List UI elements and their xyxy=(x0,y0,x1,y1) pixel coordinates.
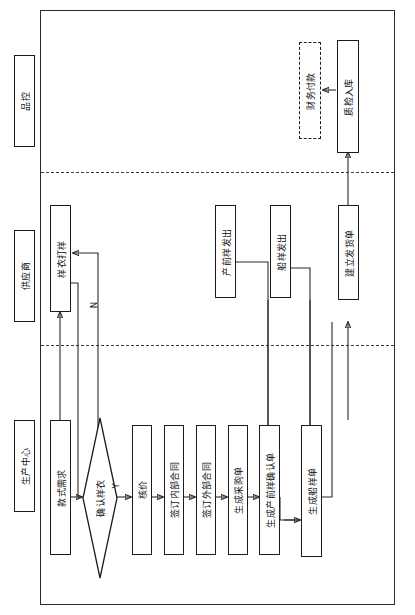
node-price-review-label: 核价 xyxy=(136,481,149,500)
node-qc-warehousing-label: 质检入库 xyxy=(342,78,355,116)
node-price-review[interactable]: 核价 xyxy=(132,425,152,555)
node-sign-internal-label: 签订内部合同 xyxy=(168,462,181,518)
node-create-delivery[interactable]: 建立发货单 xyxy=(338,205,359,300)
lane-divider-quality-supplier xyxy=(41,172,394,173)
node-ship-sample-sent-label: 船样发出 xyxy=(274,233,287,271)
node-preprod-sent-label: 产前样发出 xyxy=(219,228,232,275)
edge-label-no: N xyxy=(89,302,99,308)
node-gen-ship-sample-label: 生成船样单 xyxy=(305,468,318,515)
lane-divider-supplier-production xyxy=(41,345,394,346)
node-ship-sample-sent[interactable]: 船样发出 xyxy=(270,205,291,298)
node-finance-payment-label: 财务付款 xyxy=(304,72,317,110)
lane-title-supplier: 供应商 xyxy=(14,230,35,322)
lane-title-production: 生产中心 xyxy=(14,420,35,512)
node-finance-payment[interactable]: 财务付款 xyxy=(299,42,321,139)
node-preprod-sent[interactable]: 产前样发出 xyxy=(215,205,236,298)
node-gen-preprod-confirm-label: 生成产前样确认单 xyxy=(263,452,276,527)
node-gen-ship-sample[interactable]: 生成船样单 xyxy=(301,425,322,557)
node-sample-making[interactable]: 样衣打样 xyxy=(50,205,71,312)
node-gen-purchase-order-label: 生成采购单 xyxy=(232,467,245,514)
node-sample-making-label: 样衣打样 xyxy=(54,240,67,278)
node-gen-preprod-confirm[interactable]: 生成产前样确认单 xyxy=(259,425,280,555)
node-create-delivery-label: 建立发货单 xyxy=(342,229,355,276)
lane-title-quality: 品控 xyxy=(14,55,35,147)
lane-title-supplier-label: 供应商 xyxy=(18,262,31,291)
node-gen-purchase-order[interactable]: 生成采购单 xyxy=(228,425,248,555)
node-sign-external[interactable]: 签订外部合同 xyxy=(196,425,216,555)
node-qc-warehousing[interactable]: 质检入库 xyxy=(337,40,359,153)
edge-label-yes: Y xyxy=(111,483,121,488)
flowchart-canvas: 品控 供应商 生产中心 xyxy=(0,0,415,615)
node-sign-internal[interactable]: 签订内部合同 xyxy=(164,425,184,555)
node-style-demand-label: 款式需求 xyxy=(54,469,67,507)
node-confirm-sample-label: 确认样衣 xyxy=(94,479,107,517)
lane-title-production-label: 生产中心 xyxy=(18,447,31,485)
node-style-demand[interactable]: 款式需求 xyxy=(50,420,71,555)
node-sign-external-label: 签订外部合同 xyxy=(200,462,213,518)
node-confirm-sample[interactable]: 确认样衣 xyxy=(83,418,117,578)
lane-title-quality-label: 品控 xyxy=(18,92,31,111)
